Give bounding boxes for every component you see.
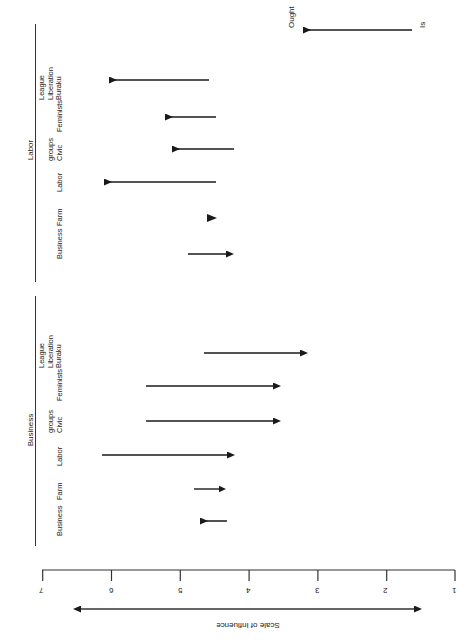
labor-arrow-farm — [207, 214, 217, 222]
label-text: Business — [55, 229, 64, 259]
label-text: Farm — [55, 483, 64, 501]
axis-tick-label-7: 7 — [39, 586, 43, 595]
label-text: Labor — [55, 447, 64, 466]
business-panel-title: Business — [26, 414, 35, 446]
axis-tick-label-5: 5 — [178, 586, 182, 595]
label-text: Labor — [55, 173, 64, 192]
labor-category-business: Business — [56, 229, 65, 259]
business-category-labor: Labor — [56, 447, 65, 466]
labor-panel-bracket — [35, 24, 36, 282]
label-text: Feminists — [55, 100, 64, 132]
business-category-civic-groups: groups Civic — [47, 410, 64, 433]
labor-category-civic-groups: groups Civic — [47, 138, 64, 161]
business-panel-bracket — [35, 296, 36, 546]
label-text: Feminists — [55, 369, 64, 401]
labor-category-buraku-liberation-league: League Liberation Buraku — [38, 67, 64, 100]
labor-panel-title: Labor — [26, 140, 35, 160]
label-text-line1: Civic — [56, 138, 65, 161]
axis-title-scale-of-influence: Scale of Influence — [216, 621, 280, 630]
legend-label-ought: Ought — [287, 6, 296, 28]
x-axis — [42, 570, 455, 581]
axis-tick-label-4: 4 — [246, 586, 250, 595]
label-text-line1: Civic — [56, 410, 65, 433]
business-category-buraku-liberation-league: League Liberation Buraku — [38, 335, 64, 368]
label-text: Farm — [55, 209, 64, 227]
chart-figure: Labor Business Farm Labor groups Civic F… — [0, 0, 472, 642]
axis-tick-label-1: 1 — [452, 586, 456, 595]
labor-category-feminists: Feminists — [56, 100, 65, 132]
label-text: Business — [55, 506, 64, 536]
legend-label-is: Is — [418, 22, 427, 28]
axis-tick-label-3: 3 — [315, 586, 319, 595]
business-category-business: Business — [56, 506, 65, 536]
labor-category-farm: Farm — [56, 209, 65, 227]
label-text-line1: Buraku — [55, 67, 64, 100]
business-category-feminists: Feminists — [56, 369, 65, 401]
axis-tick-label-2: 2 — [383, 586, 387, 595]
labor-category-labor: Labor — [56, 173, 65, 192]
chart-vector-layer — [0, 0, 472, 642]
label-text-line1: Buraku — [55, 335, 64, 368]
business-category-farm: Farm — [56, 483, 65, 501]
axis-tick-label-6: 6 — [109, 586, 113, 595]
